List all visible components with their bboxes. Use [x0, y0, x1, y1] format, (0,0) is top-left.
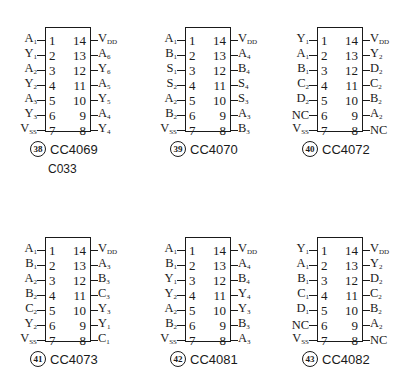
pin-lead [309, 40, 317, 41]
chip-caption: 40CC4072 [302, 141, 370, 157]
pin-number: 8 [352, 333, 359, 348]
pin-number: 11 [213, 288, 226, 303]
pin-lead [90, 250, 98, 251]
pin-left: VSS [20, 333, 45, 348]
chip-name: CC4073 [50, 352, 98, 367]
pin-number: 3 [321, 63, 328, 78]
pin-lead [177, 340, 185, 341]
pin-number: 5 [189, 303, 196, 318]
pin-number: 12 [345, 273, 358, 288]
circled-number-icon: 39 [170, 141, 186, 157]
pin-lead [230, 310, 238, 311]
pin-right: A2 [362, 108, 383, 123]
pin-lead [90, 130, 98, 131]
pin-lead [309, 325, 317, 326]
pin-lead [230, 130, 238, 131]
pin-number: 2 [189, 48, 196, 63]
pin-lead [177, 130, 185, 131]
pin-lead [177, 100, 185, 101]
pin-signal: B3 [238, 121, 250, 140]
pin-number: 1 [49, 33, 56, 48]
pin-number: 14 [73, 243, 86, 258]
pin-lead [309, 100, 317, 101]
pin-signal: VSS [160, 121, 177, 140]
pin-number: 9 [220, 108, 227, 123]
pin-lead [37, 55, 45, 56]
chip-caption: 39CC4070 [170, 141, 238, 157]
pin-lead [177, 55, 185, 56]
pin-lead [230, 250, 238, 251]
pin-number: 2 [189, 258, 196, 273]
pin-lead [177, 295, 185, 296]
pin-lead [177, 115, 185, 116]
chip-name: CC4070 [190, 142, 238, 157]
pin-number: 4 [49, 78, 56, 93]
pin-lead [230, 70, 238, 71]
pin-lead [177, 325, 185, 326]
pin-number: 4 [49, 288, 56, 303]
pin-number: 5 [49, 303, 56, 318]
pin-number: 6 [189, 108, 196, 123]
pin-number: 8 [220, 333, 227, 348]
pin-lead [230, 40, 238, 41]
pin-right: C1 [90, 333, 110, 348]
pin-number: 11 [73, 288, 86, 303]
pin-lead [309, 250, 317, 251]
pin-lead [309, 310, 317, 311]
pin-lead [90, 295, 98, 296]
pin-number: 10 [345, 303, 358, 318]
pin-lead [362, 130, 370, 131]
pin-lead [37, 85, 45, 86]
pin-signal: Y4 [98, 121, 111, 140]
pin-number: 7 [189, 123, 196, 138]
pin-lead [90, 55, 98, 56]
chip-name: CC4082 [322, 352, 370, 367]
pin-lead [90, 265, 98, 266]
pin-lead [230, 295, 238, 296]
pin-number: 4 [189, 78, 196, 93]
pin-number: 11 [213, 78, 226, 93]
pin-number: 9 [220, 318, 227, 333]
pin-lead [90, 115, 98, 116]
pin-lead [309, 70, 317, 71]
pin-lead [309, 340, 317, 341]
pin-number: 14 [213, 243, 226, 258]
pin-number: 6 [321, 108, 328, 123]
pin-lead [90, 310, 98, 311]
pin-lead [90, 325, 98, 326]
pin-number: 6 [49, 108, 56, 123]
pin-right: Y4 [90, 123, 111, 138]
pin-number: 8 [80, 333, 87, 348]
pin-lead [230, 115, 238, 116]
pin-lead [37, 130, 45, 131]
pin-left: VSS [160, 333, 185, 348]
pin-lead [90, 70, 98, 71]
pin-lead [362, 325, 370, 326]
pin-number: 13 [213, 48, 226, 63]
pin-signal: VSS [292, 331, 309, 350]
circled-number-icon: 40 [302, 141, 318, 157]
pin-lead [362, 310, 370, 311]
pin-number: 7 [49, 333, 56, 348]
pin-lead [37, 310, 45, 311]
pin-number: 9 [352, 318, 359, 333]
pin-signal: VSS [20, 121, 37, 140]
pin-number: 9 [80, 318, 87, 333]
chip-name: CC4072 [322, 142, 370, 157]
pin-lead [362, 100, 370, 101]
circled-number-icon: 42 [170, 351, 186, 367]
pin-lead [230, 280, 238, 281]
pin-number: 12 [213, 63, 226, 78]
pin-lead [90, 280, 98, 281]
pin-number: 5 [189, 93, 196, 108]
chip-cc4082: Y11A12B13C14D15NC6VSS7VDD14Y213D212C211B… [272, 210, 402, 360]
pin-lead [37, 100, 45, 101]
pin-lead [230, 340, 238, 341]
pin-left: VSS [292, 333, 317, 348]
pin-signal: VSS [160, 331, 177, 350]
pin-lead [37, 250, 45, 251]
pin-number: 4 [321, 78, 328, 93]
pin-signal: C1 [98, 331, 110, 350]
pin-number: 13 [213, 258, 226, 273]
pin-lead [177, 85, 185, 86]
